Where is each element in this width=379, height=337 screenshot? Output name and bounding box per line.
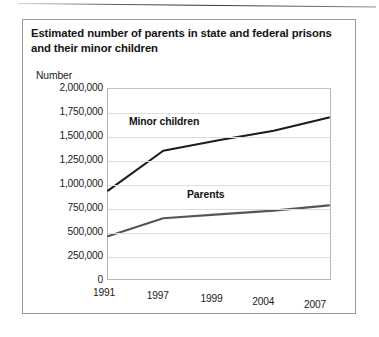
gridline: [108, 233, 330, 234]
gridline: [108, 209, 330, 210]
chart-figure: Estimated number of parents in state and…: [22, 19, 356, 314]
gridline: [108, 113, 330, 114]
x-tick-label: 2004: [252, 296, 274, 307]
series-label-parents: Parents: [187, 189, 224, 200]
gridline: [108, 257, 330, 258]
series-line-parents: [108, 205, 329, 236]
scan-artifact-line: [18, 3, 376, 7]
x-tick-label: 1997: [147, 290, 169, 301]
gridline: [108, 185, 330, 186]
series-line-minor-children: [108, 118, 329, 191]
x-tick-label: 1999: [201, 293, 223, 304]
gridline: [108, 161, 330, 162]
x-tick-label: 2007: [304, 299, 326, 310]
x-tick-label: 1991: [93, 287, 115, 298]
gridline: [108, 137, 330, 138]
series-label-minor-children: Minor children: [129, 116, 199, 127]
